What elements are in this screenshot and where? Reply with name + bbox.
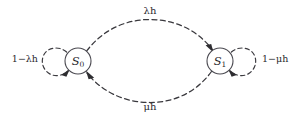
- state-node-s0-label-base: S: [72, 54, 80, 68]
- diagram-canvas: S0 S1 λh μh 1−λh 1−μh: [0, 0, 300, 118]
- self-loop-label-one-minus-lambda-h: 1−λh: [12, 53, 38, 64]
- edge-s0-to-s1-path: [87, 20, 213, 52]
- edge-s1-to-s0-path: [87, 72, 212, 103]
- state-node-s1-label-base: S: [214, 54, 222, 68]
- state-node-s1-label-sub: 1: [222, 60, 227, 69]
- edge-s0-to-s1: [87, 20, 214, 53]
- edge-s1-to-s0-arrowhead: [86, 71, 94, 80]
- edge-label-mu-h: μh: [144, 101, 157, 112]
- state-node-s0-label-sub: 0: [80, 60, 85, 69]
- self-loop-label-one-minus-mu-h: 1−μh: [262, 53, 288, 64]
- edge-label-lambda-h: λh: [144, 5, 157, 16]
- state-node-s1[interactable]: S1: [207, 48, 233, 74]
- state-transition-diagram: S0 S1 λh μh 1−λh 1−μh: [0, 0, 300, 118]
- state-node-s0[interactable]: S0: [65, 48, 91, 74]
- edge-s1-to-s0: [86, 71, 212, 103]
